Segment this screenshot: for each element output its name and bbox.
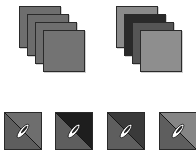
split-color-tile[interactable]	[55, 112, 93, 150]
varied-stack	[116, 6, 188, 78]
split-color-tile[interactable]	[159, 112, 196, 150]
color-card[interactable]	[140, 30, 182, 72]
uniform-stack	[19, 6, 91, 78]
split-color-tile[interactable]	[107, 112, 145, 150]
split-color-tile[interactable]	[4, 112, 42, 150]
pen-nib-icon	[160, 113, 196, 149]
color-card[interactable]	[43, 30, 85, 72]
pen-nib-icon	[108, 113, 144, 149]
pen-nib-icon	[56, 113, 92, 149]
pen-nib-icon	[5, 113, 41, 149]
